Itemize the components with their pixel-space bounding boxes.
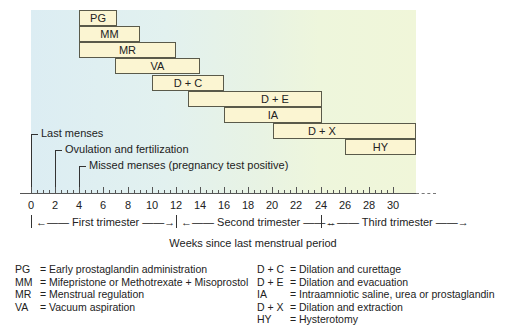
legend-right: D + C = Dilation and curettage D + E = D…	[257, 263, 495, 326]
trimester-third: ←—— Third trimester ——→	[326, 216, 469, 228]
legend-item: VA = Vacuum aspiration	[15, 301, 248, 314]
x-axis-title: Weeks since last menstrual period	[0, 237, 506, 249]
trimester-separator	[321, 215, 322, 228]
x-axis-continuation	[416, 193, 436, 194]
trimester-separator	[31, 215, 32, 228]
bar-hy: HY	[345, 139, 416, 155]
x-axis-line	[20, 193, 416, 194]
bar-dx: D + X	[273, 123, 416, 139]
trimester-separator	[176, 215, 177, 228]
bar-pg: PG	[79, 10, 117, 26]
legend-item: MR = Menstrual regulation	[15, 288, 248, 301]
legend-item: PG = Early prostaglandin administration	[15, 263, 248, 276]
bar-ia: IA	[224, 107, 322, 123]
legend-item: D + X = Dilation and extraction	[257, 301, 495, 314]
event-marker	[31, 134, 38, 193]
bar-mm: MM	[79, 26, 140, 42]
legend-left: PG = Early prostaglandin administration …	[15, 263, 248, 313]
bar-de: D + E	[188, 91, 322, 107]
legend-item: MM = Mifepristone or Methotrexate + Miso…	[15, 276, 248, 289]
event-marker	[55, 150, 62, 193]
bar-va: VA	[115, 58, 200, 74]
trimester-second: ←—— Second trimester ——→	[181, 216, 336, 228]
event-marker	[79, 166, 86, 193]
bar-dc: D + C	[152, 75, 224, 91]
legend-item: D + C = Dilation and curettage	[257, 263, 495, 276]
legend-item: D + E = Dilation and evacuation	[257, 276, 495, 289]
trimester-first: ←—— First trimester ——→	[36, 216, 175, 228]
bar-mr: MR	[79, 42, 176, 58]
legend-item: IA = Intraamniotic saline, urea or prost…	[257, 288, 495, 301]
legend-item: HY = Hysterotomy	[257, 313, 495, 326]
